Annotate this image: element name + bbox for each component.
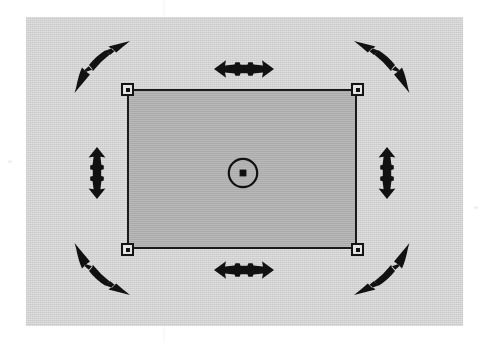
double-arrow-diagonal-nesw-icon[interactable] [72, 38, 134, 96]
double-arrow-horizontal-icon[interactable] [212, 56, 276, 82]
double-arrow-diagonal-nesw-icon[interactable] [350, 240, 412, 298]
figure-root [0, 0, 489, 343]
scan-speck [474, 206, 478, 209]
double-arrow-vertical-icon[interactable] [374, 145, 400, 201]
double-arrow-diagonal-nwse-icon[interactable] [72, 240, 134, 298]
double-arrow-diagonal-nwse-icon[interactable] [350, 38, 412, 96]
double-arrow-vertical-icon[interactable] [84, 145, 110, 201]
center-anchor-point[interactable] [226, 156, 260, 190]
double-arrow-horizontal-icon[interactable] [212, 257, 276, 283]
scan-speck [8, 160, 12, 163]
